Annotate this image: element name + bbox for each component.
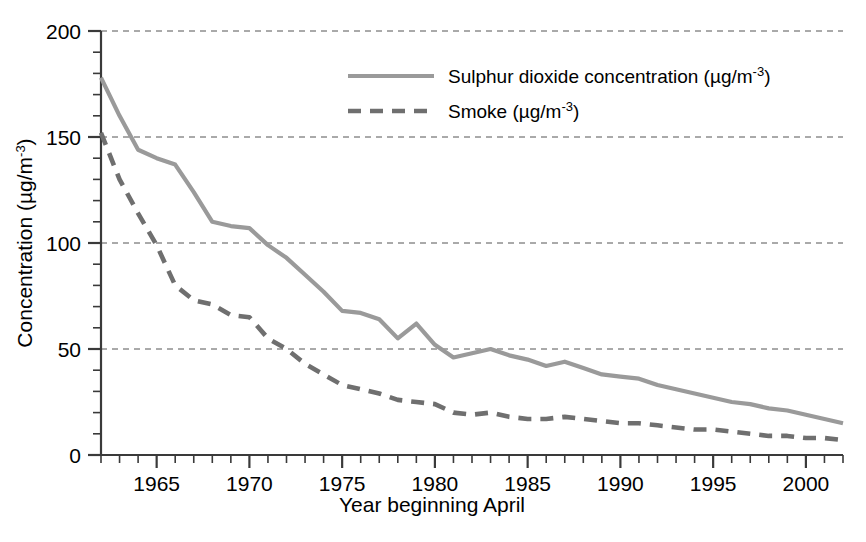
series-line-smoke: [101, 133, 843, 440]
x-tick-label-1990: 1990: [597, 472, 644, 495]
x-axis-ticks: [101, 455, 843, 468]
y-tick-label-100: 100: [46, 232, 81, 255]
y-axis-tick-labels: 050100150200: [46, 20, 81, 467]
x-tick-label-1985: 1985: [504, 472, 551, 495]
legend: Sulphur dioxide concentration (µg/m-3) S…: [348, 64, 770, 122]
legend-label-smoke-superscript: -3: [561, 99, 573, 114]
series-line-sulphur-dioxide: [101, 78, 843, 424]
data-series-group: [101, 78, 843, 441]
legend-label-sulphur-dioxide-tail: ): [764, 66, 770, 87]
legend-label-smoke-tail: ): [573, 101, 579, 122]
legend-label-sulphur-dioxide-superscript: -3: [753, 64, 765, 79]
y-axis-ticks: [88, 31, 101, 455]
svg-text:Concentration (µg/m-3): Concentration (µg/m-3): [13, 138, 36, 347]
x-tick-label-1995: 1995: [690, 472, 737, 495]
x-tick-label-1975: 1975: [319, 472, 366, 495]
y-axis-title-superscript: -3: [13, 145, 28, 157]
line-chart: 050100150200 196519701975198019851990199…: [0, 0, 866, 542]
chart-container: 050100150200 196519701975198019851990199…: [0, 0, 866, 542]
x-tick-label-1965: 1965: [133, 472, 180, 495]
y-axis-title-tail: ): [13, 138, 36, 145]
legend-label-smoke: Smoke (µg/m-3): [448, 99, 579, 122]
x-tick-label-1980: 1980: [412, 472, 459, 495]
x-tick-label-2000: 2000: [783, 472, 830, 495]
y-axis-title-main: Concentration (µg/m: [13, 157, 36, 348]
y-axis-title: Concentration (µg/m-3): [13, 138, 36, 347]
y-tick-label-200: 200: [46, 20, 81, 43]
x-axis-title: Year beginning April: [339, 493, 525, 516]
legend-label-smoke-main: Smoke (µg/m: [448, 101, 561, 122]
legend-label-sulphur-dioxide-main: Sulphur dioxide concentration (µg/m: [448, 66, 753, 87]
legend-label-sulphur-dioxide: Sulphur dioxide concentration (µg/m-3): [448, 64, 770, 87]
x-axis-tick-labels: 19651970197519801985199019952000: [133, 472, 829, 495]
y-tick-label-50: 50: [58, 338, 81, 361]
y-tick-label-0: 0: [69, 444, 81, 467]
y-tick-label-150: 150: [46, 126, 81, 149]
x-tick-label-1970: 1970: [226, 472, 273, 495]
gridlines: [101, 31, 843, 455]
